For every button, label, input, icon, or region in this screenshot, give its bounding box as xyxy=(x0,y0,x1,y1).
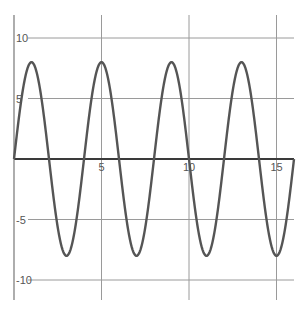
x-tick-label: 5 xyxy=(98,161,104,173)
x-tick-label: 15 xyxy=(270,161,282,173)
grid-lines xyxy=(28,15,294,300)
y-tick-label: -10 xyxy=(16,274,32,286)
y-tick-label: -5 xyxy=(16,214,26,226)
y-tick-label: 10 xyxy=(16,32,28,44)
chart: 51015105-5-10 xyxy=(0,0,307,317)
